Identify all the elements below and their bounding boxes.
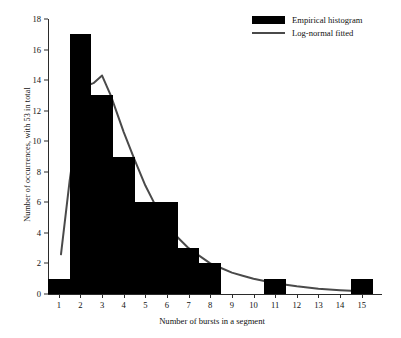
histogram-bar [178,248,200,294]
legend-item-empirical-histogram: Empirical histogram [252,13,398,26]
x-tick-mark [340,294,341,298]
histogram-bar [156,202,178,294]
y-tick-label: 8 [0,167,41,177]
x-tick-label: 15 [357,300,366,310]
y-tick-mark [44,263,48,264]
x-tick-label: 14 [336,300,345,310]
x-tick-label: 11 [271,300,279,310]
x-tick-mark [254,294,255,298]
x-tick-mark [297,294,298,298]
x-tick-label: 10 [249,300,258,310]
x-tick-label: 7 [186,300,190,310]
chart-legend: Empirical histogram Log-normal fitted [252,13,398,39]
x-tick-label: 4 [122,300,126,310]
x-tick-label: 2 [78,300,82,310]
x-tick-label: 1 [57,300,61,310]
x-tick-mark [189,294,190,298]
legend-item-log-normal-fitted: Log-normal fitted [252,26,398,39]
x-tick-mark [167,294,168,298]
x-tick-label: 12 [292,300,301,310]
chart-container: Number of occurrences, with 53 in total … [0,0,401,338]
y-tick-label: 18 [0,14,41,24]
y-axis-title: Number of occurrences, with 53 in total [23,30,32,280]
y-tick-label: 16 [0,45,41,55]
x-tick-label: 6 [165,300,169,310]
x-tick-mark [318,294,319,298]
x-tick-mark [59,294,60,298]
y-tick-mark [44,110,48,111]
x-tick-label: 9 [230,300,234,310]
y-tick-mark [44,294,48,295]
legend-label-empirical-histogram: Empirical histogram [292,15,362,25]
y-tick-mark [44,19,48,20]
histogram-bar [70,34,92,294]
x-tick-mark [124,294,125,298]
histogram-bar [91,95,113,294]
x-tick-mark [210,294,211,298]
x-tick-mark [362,294,363,298]
x-tick-mark [145,294,146,298]
x-tick-mark [275,294,276,298]
histogram-bar [113,157,135,295]
legend-box-swatch-icon [252,16,285,24]
y-tick-label: 2 [0,258,41,268]
x-axis-title: Number of bursts in a segment [42,316,382,326]
y-tick-label: 10 [0,136,41,146]
histogram-bar [199,263,221,294]
y-tick-label: 12 [0,106,41,116]
histogram-bar [351,279,373,294]
y-tick-mark [44,80,48,81]
y-tick-label: 6 [0,197,41,207]
y-tick-mark [44,232,48,233]
y-tick-mark [44,202,48,203]
legend-line-swatch-icon [252,32,285,34]
y-tick-mark [44,49,48,50]
y-tick-mark [44,141,48,142]
x-tick-label: 13 [314,300,323,310]
x-axis-line [48,294,382,295]
x-tick-label: 3 [100,300,104,310]
histogram-bar [48,279,70,294]
y-tick-label: 14 [0,75,41,85]
x-tick-mark [102,294,103,298]
y-tick-label: 4 [0,228,41,238]
y-tick-mark [44,171,48,172]
x-tick-label: 5 [143,300,147,310]
y-tick-label: 0 [0,289,41,299]
x-tick-mark [232,294,233,298]
histogram-bar [264,279,286,294]
legend-label-log-normal-fitted: Log-normal fitted [292,28,353,38]
x-tick-label: 8 [208,300,212,310]
x-tick-mark [80,294,81,298]
plot-area [48,19,379,294]
histogram-bar [135,202,157,294]
